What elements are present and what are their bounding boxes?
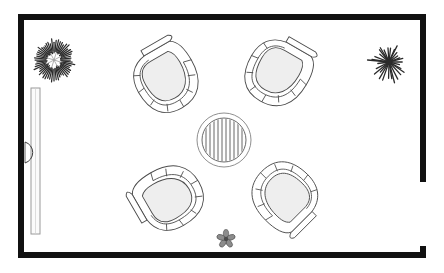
wall-top — [18, 14, 426, 20]
wall-left — [18, 14, 24, 258]
round-coffee-table — [197, 113, 251, 167]
table-top — [202, 118, 246, 162]
floor-plan-canvas — [0, 0, 444, 273]
wall-bottom — [18, 252, 426, 258]
wall-right-upper — [420, 14, 426, 182]
wall-right-stub — [420, 246, 426, 258]
glass-partition-left — [31, 88, 40, 234]
floor-plan-drawing — [0, 0, 444, 273]
